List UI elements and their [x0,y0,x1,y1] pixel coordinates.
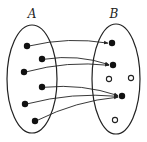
domain-point-a2 [39,56,45,62]
domain-point-a5 [22,101,28,107]
domain-point-a6 [32,118,38,124]
set-b-label: B [109,7,119,21]
domain-point-a3 [21,69,27,75]
image-point-b1 [109,40,115,46]
image-point-b5 [119,93,125,99]
mapping-arrow-a3-b2 [26,64,109,72]
set-a-label: A [27,7,37,21]
mapping-arrow-a2-b2 [44,57,109,64]
mapping-arrow-a1-b1 [29,40,108,46]
domain-point-a1 [24,43,30,49]
unmapped-point-b6 [112,117,117,122]
set-a-ellipse [7,25,57,133]
domain-point-a4 [39,84,45,90]
mapping-arrow-a5-b5 [27,95,118,104]
unmapped-point-b4 [128,75,133,80]
image-point-b2 [110,62,116,68]
unmapped-point-b3 [106,76,111,81]
function-mapping-diagram: AB [0,0,147,142]
